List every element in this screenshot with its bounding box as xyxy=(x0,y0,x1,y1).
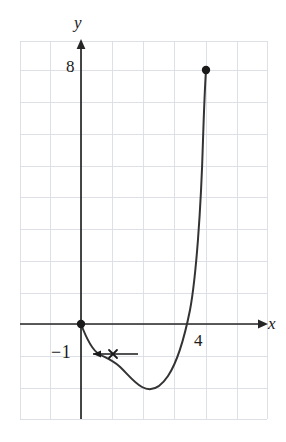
cubic-curve xyxy=(81,70,206,389)
y-tick-label-neg1: −1 xyxy=(51,343,71,361)
x-axis xyxy=(20,320,268,329)
y-axis-arrowhead xyxy=(77,39,86,49)
x-axis-label: x xyxy=(268,315,276,332)
endpoint-dot-right xyxy=(202,66,210,74)
x-axis-arrowhead xyxy=(258,320,268,329)
y-axis-label: y xyxy=(74,14,82,31)
graph-figure xyxy=(0,0,286,442)
grid-lines xyxy=(20,41,267,419)
graph-canvas xyxy=(0,0,286,442)
y-tick-label-8: 8 xyxy=(66,58,75,75)
endpoint-dot-origin xyxy=(77,320,85,328)
x-tick-label-4: 4 xyxy=(194,332,203,349)
